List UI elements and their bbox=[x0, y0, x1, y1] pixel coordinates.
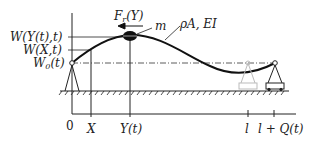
beam-properties-label: ρA, EI bbox=[179, 17, 217, 31]
beam-diagram: Fr(Y) m ρA, EI W(Y(t),t) W(X,t) W0(t) 0 … bbox=[0, 0, 309, 144]
tick-label-origin: 0 bbox=[66, 119, 74, 133]
moving-mass bbox=[123, 31, 137, 41]
tick-label-y: Y(t) bbox=[120, 122, 142, 136]
ghost-support bbox=[239, 61, 257, 89]
beam-leader bbox=[165, 26, 180, 40]
tick-label-x: X bbox=[86, 122, 96, 136]
ground bbox=[59, 91, 289, 95]
w-yt-label: W(Y(t),t) bbox=[10, 30, 63, 44]
mass-leader bbox=[137, 28, 152, 34]
tick-label-l: l bbox=[245, 122, 249, 136]
w0-label: W0(t) bbox=[33, 56, 65, 71]
mass-label: m bbox=[155, 19, 166, 33]
tick-label-l-plus-q: l + Q(t) bbox=[258, 122, 304, 136]
w-xt-label: W(X,t) bbox=[23, 43, 62, 57]
axis-ticks bbox=[91, 36, 274, 117]
force-label: Fr(Y) bbox=[113, 9, 144, 24]
beam-curve bbox=[72, 35, 275, 73]
